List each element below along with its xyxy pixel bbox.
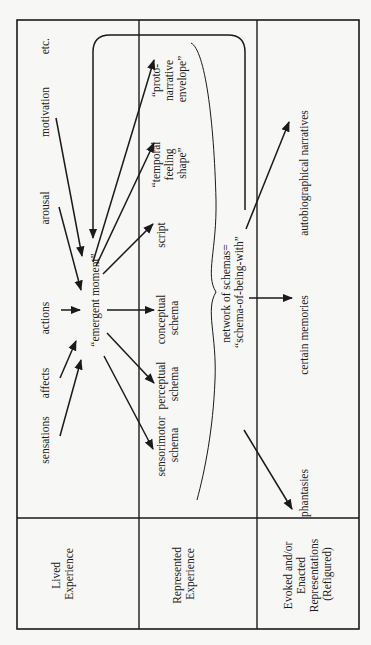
output-arrows <box>93 60 154 449</box>
label-phantasies: phantasies <box>298 469 311 517</box>
evoked-representations: phantasies certain memories autobiograph… <box>298 110 311 517</box>
label-certain-memories: certain memories <box>298 295 310 375</box>
label-arousal: arousal <box>39 191 51 224</box>
arrow-temporal-feeling-shape <box>96 143 154 266</box>
arrow-script <box>103 224 153 274</box>
label-temporal-feeling-shape: “temporal feeling shape” <box>150 139 189 188</box>
row-header-evoked: Evoked and/or Enacted Representations (R… <box>282 536 334 612</box>
label-affects: affects <box>39 367 51 398</box>
label-etc: etc. <box>39 38 51 54</box>
arrow-arousal <box>59 207 81 290</box>
label-proto-narrative-envelope: “proto- narrative envelope” <box>150 56 189 103</box>
evoked-arrows <box>244 122 292 509</box>
schema-brace <box>191 43 216 500</box>
row-header-lived: Lived Experience <box>50 548 76 600</box>
label-sensations: sensations <box>39 416 51 464</box>
input-arrows <box>56 118 82 436</box>
label-perceptual-schema: perceptual schema <box>155 359 180 410</box>
label-network-of-schemas: network of schemas= “schema-of-being-wit… <box>220 236 246 348</box>
label-actions: actions <box>39 301 51 334</box>
arrow-motivation <box>56 118 82 256</box>
arrow-affects <box>60 341 76 378</box>
label-autobiographical-narratives: autobiographical narratives <box>298 110 311 236</box>
arrow-sensorimotor <box>104 356 153 449</box>
arrow-autobiographical-narratives <box>246 122 289 229</box>
lived-inputs: sensations affects actions arousal motiv… <box>39 38 51 464</box>
label-conceptual-schema: conceptual schema <box>155 292 180 345</box>
label-script: script <box>155 221 168 247</box>
represented-schemas: sensorimotor schema perceptual schema co… <box>150 56 189 477</box>
row-headers: Lived Experience Represented Experience … <box>50 536 334 612</box>
label-sensorimotor-schema: sensorimotor schema <box>155 414 180 477</box>
arrow-phantasies <box>244 430 292 509</box>
label-motivation: motivation <box>39 87 51 137</box>
emergent-moment-label: “emergent moment” <box>89 253 102 346</box>
diagram-canvas: Lived Experience Represented Experience … <box>0 0 371 645</box>
row-header-represented: Represented Experience <box>171 544 197 604</box>
